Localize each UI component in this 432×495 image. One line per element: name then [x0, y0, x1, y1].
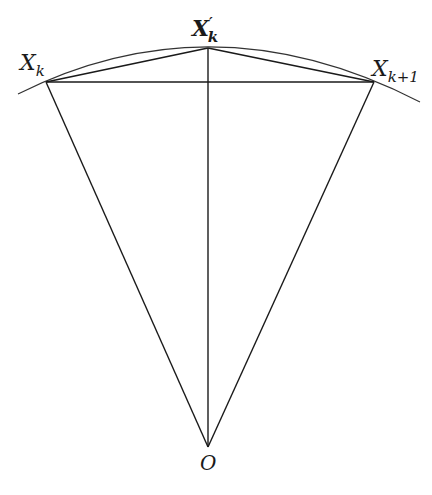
radius-o-xk1	[208, 82, 374, 447]
label-xk1: Xk+1	[370, 56, 419, 86]
radius-o-xk	[46, 82, 208, 447]
chord-xkprime-xk1	[208, 48, 374, 82]
label-xk-prime: X′k	[190, 15, 218, 46]
geometry-diagram: Xk X′k Xk+1 O	[0, 0, 432, 495]
label-xk: Xk	[18, 50, 45, 80]
chord-xk-xkprime	[46, 48, 208, 82]
label-o: O	[200, 451, 216, 475]
